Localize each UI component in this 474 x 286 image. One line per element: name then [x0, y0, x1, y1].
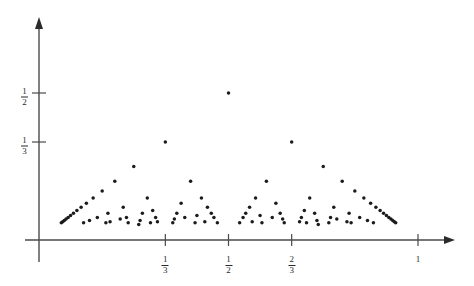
- data-point: [173, 217, 177, 221]
- data-point: [332, 206, 336, 210]
- data-point: [121, 206, 125, 210]
- x-tick-label: 13: [162, 248, 169, 275]
- data-point: [369, 202, 373, 206]
- data-point: [260, 221, 264, 225]
- data-point: [366, 219, 370, 223]
- plot-canvas: [0, 0, 474, 286]
- data-point: [200, 196, 204, 200]
- data-point: [149, 221, 153, 225]
- data-point: [72, 212, 76, 216]
- data-point: [137, 223, 141, 227]
- data-point: [353, 189, 357, 193]
- data-point: [212, 216, 216, 220]
- data-point: [132, 165, 136, 169]
- y-tick-label: 13: [21, 129, 28, 156]
- fraction-numerator: 1: [21, 136, 28, 145]
- data-point: [308, 196, 312, 200]
- data-point: [227, 91, 231, 95]
- data-point: [195, 214, 199, 218]
- data-point: [82, 221, 86, 225]
- data-point: [265, 179, 269, 183]
- data-point: [329, 216, 333, 220]
- data-point: [216, 221, 220, 225]
- data-point: [322, 165, 326, 169]
- data-point: [362, 196, 366, 200]
- data-point: [171, 221, 175, 225]
- data-point: [88, 219, 92, 223]
- data-point: [345, 220, 349, 224]
- data-point: [374, 206, 378, 210]
- data-point: [250, 220, 254, 224]
- fraction-numerator: 1: [225, 255, 232, 264]
- data-point: [108, 220, 112, 224]
- data-point: [315, 219, 319, 223]
- data-point: [189, 179, 193, 183]
- data-point: [203, 220, 207, 224]
- data-point: [75, 209, 79, 213]
- data-point: [179, 202, 183, 206]
- data-point: [278, 212, 282, 216]
- data-point: [138, 219, 142, 223]
- data-point: [125, 216, 128, 220]
- data-point: [141, 212, 145, 216]
- data-point: [313, 212, 317, 216]
- fraction-denominator: 3: [162, 266, 169, 275]
- fraction-numerator: 2: [288, 255, 295, 264]
- data-point: [238, 221, 242, 225]
- y-tick-label: 12: [21, 80, 28, 107]
- data-point: [254, 196, 258, 200]
- x-axis-arrow-icon: [444, 236, 455, 244]
- data-point: [164, 140, 168, 144]
- data-point: [382, 212, 386, 216]
- data-point: [106, 212, 110, 216]
- data-point: [305, 221, 309, 225]
- data-point: [340, 179, 344, 183]
- data-point: [104, 221, 108, 225]
- data-point: [281, 217, 285, 221]
- data-point: [91, 196, 95, 200]
- data-point: [349, 221, 353, 225]
- data-point: [175, 212, 179, 216]
- data-point: [258, 214, 262, 218]
- data-point: [193, 221, 197, 225]
- data-point: [378, 209, 382, 213]
- data-point: [317, 223, 321, 227]
- data-point: [96, 216, 100, 220]
- data-point: [156, 220, 160, 224]
- data-point: [244, 212, 248, 216]
- fraction-label: 23: [288, 255, 295, 275]
- thomae-function-scatter-plot: 1312231 1213: [0, 0, 474, 286]
- data-point: [290, 140, 294, 144]
- data-point: [347, 212, 351, 216]
- data-point: [303, 209, 307, 213]
- data-point: [358, 216, 362, 220]
- tick-label-text: 1: [416, 254, 421, 264]
- data-point: [274, 202, 278, 206]
- fraction-numerator: 1: [162, 255, 169, 264]
- data-point: [146, 196, 150, 200]
- data-point: [154, 216, 158, 220]
- data-point: [210, 212, 214, 216]
- data-point: [298, 220, 302, 224]
- data-point: [151, 209, 155, 213]
- data-point: [248, 206, 252, 210]
- fraction-label: 13: [162, 255, 169, 275]
- data-point: [335, 217, 339, 221]
- data-point: [372, 221, 376, 225]
- data-point: [241, 216, 245, 220]
- scatter-points: [60, 91, 398, 226]
- fraction-denominator: 2: [225, 266, 232, 275]
- data-point: [300, 216, 304, 220]
- x-tick-label: 12: [225, 248, 232, 275]
- fraction-numerator: 1: [21, 87, 28, 96]
- data-point: [126, 221, 130, 225]
- data-point: [118, 217, 122, 221]
- fraction-denominator: 3: [288, 266, 295, 275]
- fraction-denominator: 2: [21, 98, 28, 107]
- fraction-denominator: 3: [21, 147, 28, 156]
- data-point: [394, 221, 398, 225]
- fraction-label: 13: [21, 136, 28, 156]
- data-point: [79, 206, 83, 210]
- data-point: [69, 214, 73, 218]
- fraction-label: 12: [21, 87, 28, 107]
